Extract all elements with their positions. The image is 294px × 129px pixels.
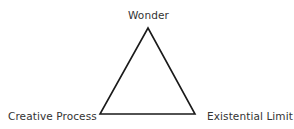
- triangle-shape: [100, 28, 195, 114]
- vertex-label-existential-limit: Existential Limit: [207, 110, 293, 122]
- vertex-label-wonder: Wonder: [128, 9, 169, 21]
- vertex-label-creative-process: Creative Process: [8, 110, 97, 122]
